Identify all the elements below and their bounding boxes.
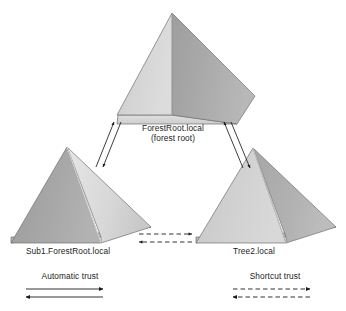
legend-shortcut-trust-arrows	[233, 289, 310, 297]
pyramid-tree2	[196, 148, 336, 243]
node-label-sub1: Sub1.ForestRoot.local	[26, 246, 110, 256]
pyramid-forest-root-right-face	[172, 13, 255, 124]
node-label-tree2: Tree2.local	[233, 246, 275, 256]
node-sublabel-forest-root: (forest root)	[151, 133, 195, 143]
pyramid-forest-root	[117, 13, 255, 124]
legend-label-automatic-trust: Automatic trust	[42, 271, 99, 281]
connection-forestroot-sub1	[96, 122, 121, 167]
diagram-canvas	[0, 0, 346, 311]
legend-label-shortcut-trust: Shortcut trust	[250, 271, 301, 281]
connection-sub1-tree2	[139, 234, 192, 242]
pyramid-forest-root-left-face	[117, 13, 172, 115]
connection-forestroot-sub1-line-a	[96, 122, 114, 167]
legend-automatic-trust-arrows	[26, 289, 103, 297]
node-label-forest-root: ForestRoot.local	[142, 123, 204, 133]
trust-diagram: ForestRoot.local (forest root) Sub1.Fore…	[0, 0, 346, 311]
connection-forestroot-sub1-line-b	[103, 122, 121, 167]
pyramid-sub1	[11, 147, 151, 243]
